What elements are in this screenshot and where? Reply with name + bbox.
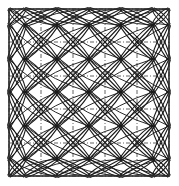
geometric-lattice-diagram	[0, 0, 179, 186]
figure-container: Geometric lattice line diagram	[0, 0, 179, 186]
